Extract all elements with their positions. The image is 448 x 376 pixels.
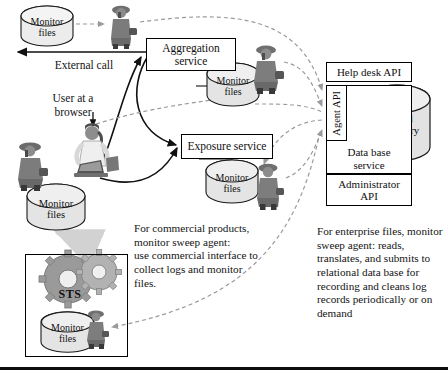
- annotation-enterprise-files: For enterprise files, monitor sweep agen…: [317, 225, 448, 321]
- annotation-commercial-products: For commercial products, monitor sweep a…: [134, 222, 274, 290]
- connector-sts-to-monitor-files: [59, 232, 82, 252]
- node-aggregation-service-label: Aggregation service: [162, 42, 219, 68]
- monitor-files-top-left-shape: [21, 6, 73, 46]
- monitor-files-exposure-label: Monitor files: [206, 173, 258, 195]
- flow-aggregation-agent-to-agent-api: [284, 62, 322, 106]
- node-administrator-api-label: Administrator API: [338, 178, 400, 203]
- monitor-files-user-shape: [27, 184, 85, 230]
- connector-browser-to-exposure: [100, 148, 177, 182]
- node-aggregation-service[interactable]: Aggregation service: [146, 38, 236, 71]
- node-agent-api-label: Agent API: [331, 91, 343, 136]
- flow-aggregation-files-to-right: [255, 104, 322, 112]
- monitor-files-top-left-label: Monitor files: [21, 17, 73, 39]
- node-help-desk-api[interactable]: Help desk API: [326, 62, 412, 82]
- agent-figure-aggregation-icon: [254, 46, 284, 94]
- agent-figure-top-icon: [111, 6, 137, 49]
- label-external-call: External call: [24, 59, 144, 73]
- user-browser-figure-icon: [74, 123, 119, 177]
- node-exposure-service[interactable]: Exposure service: [181, 134, 273, 159]
- node-data-base-service-label: Data base service: [347, 146, 390, 171]
- node-sts[interactable]: [25, 254, 128, 357]
- connector-aggregation-to-files: [196, 71, 222, 86]
- agent-figure-user-left-icon: [18, 142, 48, 191]
- monitor-files-aggregation-label: Monitor files: [207, 76, 259, 98]
- connector-exposure-to-files: [199, 159, 232, 166]
- node-exposure-service-label: Exposure service: [188, 140, 267, 153]
- node-agent-api[interactable]: Agent API: [326, 85, 347, 141]
- flow-exposure-agent-to-agent-api: [286, 130, 322, 178]
- monitor-files-user-label: Monitor files: [27, 198, 85, 221]
- label-user-at-a-browser: User at a browser: [38, 92, 108, 119]
- monitor-files-exposure-shape: [206, 160, 258, 203]
- diagram-canvas: Monitor files Monitor files Monitor file…: [0, 0, 448, 376]
- node-help-desk-api-label: Help desk API: [337, 66, 401, 78]
- node-administrator-api[interactable]: Administrator API: [326, 174, 412, 206]
- agent-figure-exposure-icon: [257, 164, 284, 210]
- bottom-divider: [0, 367, 448, 370]
- flow-user-to-aggregation-agent: [96, 95, 248, 124]
